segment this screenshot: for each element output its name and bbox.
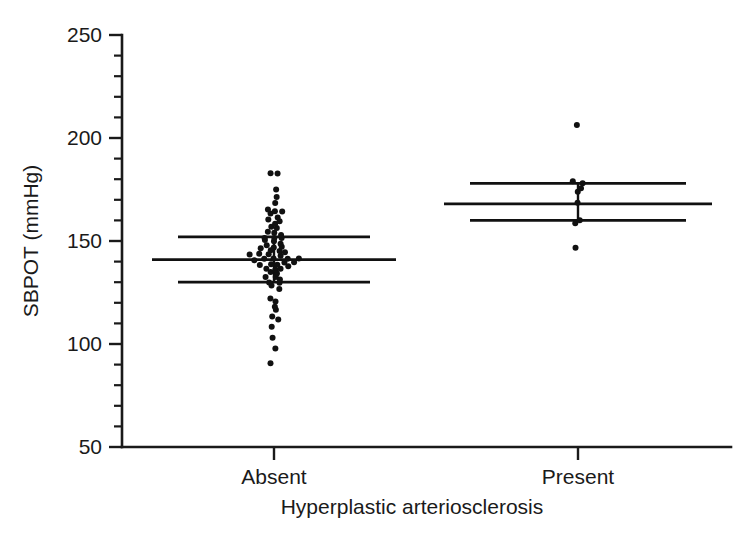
data-point: [275, 316, 281, 322]
data-point: [267, 296, 273, 302]
data-point: [271, 235, 277, 241]
data-point: [570, 178, 576, 184]
data-point: [247, 252, 253, 258]
data-point: [273, 186, 279, 192]
data-point: [261, 256, 267, 262]
error-bar-lines: [152, 183, 712, 282]
chart-figure: 50100150200250 AbsentPresent Hyperplasti…: [0, 0, 753, 551]
data-point: [266, 279, 272, 285]
x-axis-title: Hyperplastic arteriosclerosis: [281, 495, 544, 518]
y-axis-tick-labels: 50100150200250: [67, 23, 102, 458]
data-point: [273, 299, 279, 305]
y-tick-label: 100: [67, 332, 102, 355]
data-point: [262, 235, 268, 241]
data-point: [264, 242, 270, 248]
data-points: [247, 122, 586, 366]
y-tick-label: 200: [67, 126, 102, 149]
data-point: [268, 170, 274, 176]
data-point: [279, 208, 285, 214]
data-point: [578, 185, 584, 191]
y-tick-label: 50: [79, 435, 102, 458]
data-point: [275, 215, 281, 221]
y-axis-title: SBPOT (mmHg): [19, 165, 42, 317]
data-point: [278, 241, 284, 247]
data-point: [272, 208, 278, 214]
x-category-label-absent: Absent: [241, 465, 307, 488]
data-point: [282, 249, 288, 255]
x-axis-ticks: [274, 447, 578, 460]
data-point: [257, 262, 263, 268]
data-point: [265, 207, 271, 213]
data-point: [265, 229, 271, 235]
data-point: [263, 274, 269, 280]
data-point: [256, 251, 262, 257]
data-point: [272, 200, 278, 206]
scatter-plot-svg: 50100150200250 AbsentPresent Hyperplasti…: [0, 0, 753, 551]
data-point: [277, 277, 283, 283]
data-point: [272, 346, 278, 352]
data-point: [577, 217, 583, 223]
data-point: [274, 194, 280, 200]
data-point: [268, 261, 274, 267]
data-point: [258, 245, 264, 251]
x-axis-category-labels: AbsentPresent: [241, 465, 614, 488]
data-point: [271, 245, 277, 251]
axes: [122, 35, 731, 447]
data-point: [265, 217, 271, 223]
data-point: [276, 286, 282, 292]
data-point: [291, 259, 297, 265]
data-point: [274, 262, 280, 268]
data-point: [270, 335, 276, 341]
data-point: [573, 245, 579, 251]
data-point: [268, 360, 274, 366]
data-point: [251, 257, 257, 263]
x-category-label-present: Present: [542, 465, 615, 488]
data-point: [269, 313, 275, 319]
data-point: [278, 232, 284, 238]
y-tick-label: 250: [67, 23, 102, 46]
data-point: [580, 180, 586, 186]
data-point: [574, 122, 580, 128]
data-point: [296, 255, 302, 261]
data-point: [269, 324, 275, 330]
data-point: [275, 171, 281, 177]
y-tick-label: 150: [67, 229, 102, 252]
data-point: [263, 266, 269, 272]
data-point: [272, 304, 278, 310]
data-point: [271, 256, 277, 262]
data-point: [285, 256, 291, 262]
data-point: [575, 200, 581, 206]
